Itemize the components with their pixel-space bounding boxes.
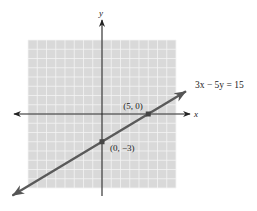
x-axis-label: x xyxy=(193,109,198,119)
y-axis-label: y xyxy=(98,8,103,18)
intercept-point-label: (0, −3) xyxy=(110,143,135,153)
intercept-point-marker xyxy=(146,112,151,117)
intercept-point-label: (5, 0) xyxy=(123,101,143,111)
intercept-point-marker xyxy=(100,139,105,144)
equation-label: 3x − 5y = 15 xyxy=(195,80,244,90)
coordinate-plane: (5, 0)(0, −3) x y 3x − 5y = 15 xyxy=(0,0,257,211)
